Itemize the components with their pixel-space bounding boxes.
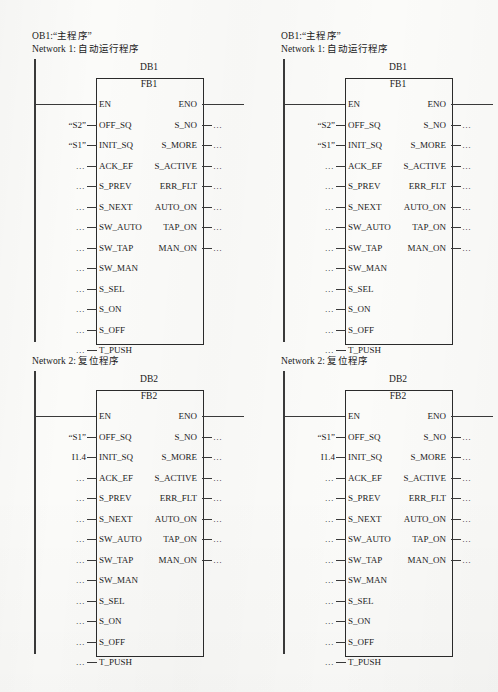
output-pin-s-no[interactable]: S_NO (101, 120, 197, 131)
output-pin-eno[interactable]: ENO (101, 99, 197, 110)
output-pin-s-more[interactable]: S_MORE (350, 140, 446, 151)
input-pin-sw-man[interactable]: SW_MAN (99, 263, 138, 274)
input-operand-placeholder[interactable]: … (76, 243, 86, 254)
input-pin-s-sel[interactable]: S_SEL (348, 596, 374, 607)
input-operand-placeholder[interactable]: … (76, 514, 86, 525)
input-operand-placeholder[interactable]: … (325, 534, 335, 545)
input-pin-s-off[interactable]: S_OFF (348, 325, 374, 336)
input-pin-s-sel[interactable]: S_SEL (348, 284, 374, 295)
output-operand-placeholder[interactable]: … (462, 514, 472, 525)
input-operand-off-sq[interactable]: “S2” (318, 120, 336, 131)
input-operand-placeholder[interactable]: … (325, 284, 335, 295)
output-operand-placeholder[interactable]: … (462, 222, 472, 233)
output-operand-placeholder[interactable]: … (462, 120, 472, 131)
input-operand-placeholder[interactable]: … (325, 637, 335, 648)
input-operand-placeholder[interactable]: … (76, 304, 86, 315)
output-operand-placeholder[interactable]: … (213, 243, 223, 254)
output-pin-tap-on[interactable]: TAP_ON (350, 534, 446, 545)
input-operand-init-sq[interactable]: I1.4 (72, 452, 86, 463)
input-operand-placeholder[interactable]: … (76, 222, 86, 233)
output-pin-auto-on[interactable]: AUTO_ON (101, 202, 197, 213)
input-operand-placeholder[interactable]: … (325, 493, 335, 504)
output-operand-placeholder[interactable]: … (213, 432, 223, 443)
input-operand-placeholder[interactable]: … (76, 161, 86, 172)
input-pin-s-sel[interactable]: S_SEL (99, 284, 125, 295)
input-operand-placeholder[interactable]: … (76, 181, 86, 192)
output-operand-placeholder[interactable]: … (213, 161, 223, 172)
output-pin-s-active[interactable]: S_ACTIVE (101, 161, 197, 172)
output-pin-err-flt[interactable]: ERR_FLT (101, 181, 197, 192)
output-pin-eno[interactable]: ENO (350, 99, 446, 110)
output-pin-man-on[interactable]: MAN_ON (101, 243, 197, 254)
input-operand-init-sq[interactable]: I1.4 (321, 452, 335, 463)
input-operand-off-sq[interactable]: “S2” (69, 120, 87, 131)
output-pin-auto-on[interactable]: AUTO_ON (101, 514, 197, 525)
input-operand-placeholder[interactable]: … (325, 555, 335, 566)
output-operand-placeholder[interactable]: … (462, 181, 472, 192)
output-operand-placeholder[interactable]: … (462, 452, 472, 463)
output-pin-err-flt[interactable]: ERR_FLT (350, 181, 446, 192)
input-operand-placeholder[interactable]: … (325, 325, 335, 336)
input-pin-sw-man[interactable]: SW_MAN (348, 263, 387, 274)
output-operand-placeholder[interactable]: … (213, 222, 223, 233)
input-operand-init-sq[interactable]: “S1” (69, 140, 87, 151)
input-operand-placeholder[interactable]: … (76, 616, 86, 627)
output-pin-s-no[interactable]: S_NO (350, 432, 446, 443)
output-operand-placeholder[interactable]: … (213, 473, 223, 484)
output-pin-man-on[interactable]: MAN_ON (350, 555, 446, 566)
output-pin-s-active[interactable]: S_ACTIVE (350, 473, 446, 484)
output-operand-placeholder[interactable]: … (462, 555, 472, 566)
input-operand-placeholder[interactable]: … (76, 637, 86, 648)
input-operand-off-sq[interactable]: “S1” (318, 432, 336, 443)
output-operand-placeholder[interactable]: … (213, 514, 223, 525)
output-pin-man-on[interactable]: MAN_ON (350, 243, 446, 254)
output-pin-eno[interactable]: ENO (350, 411, 446, 422)
output-operand-placeholder[interactable]: … (213, 555, 223, 566)
input-operand-placeholder[interactable]: … (325, 304, 335, 315)
output-operand-placeholder[interactable]: … (462, 534, 472, 545)
input-operand-placeholder[interactable]: … (76, 493, 86, 504)
output-pin-err-flt[interactable]: ERR_FLT (101, 493, 197, 504)
output-operand-placeholder[interactable]: … (462, 243, 472, 254)
output-pin-eno[interactable]: ENO (101, 411, 197, 422)
input-operand-placeholder[interactable]: … (325, 202, 335, 213)
output-pin-tap-on[interactable]: TAP_ON (101, 222, 197, 233)
input-pin-s-off[interactable]: S_OFF (99, 637, 125, 648)
input-operand-placeholder[interactable]: … (325, 161, 335, 172)
input-operand-placeholder[interactable]: … (76, 202, 86, 213)
input-operand-placeholder[interactable]: … (325, 596, 335, 607)
input-operand-placeholder[interactable]: … (76, 325, 86, 336)
input-pin-s-off[interactable]: S_OFF (348, 637, 374, 648)
output-operand-placeholder[interactable]: … (462, 432, 472, 443)
output-pin-s-no[interactable]: S_NO (101, 432, 197, 443)
output-operand-placeholder[interactable]: … (462, 161, 472, 172)
output-pin-s-more[interactable]: S_MORE (350, 452, 446, 463)
input-pin-s-sel[interactable]: S_SEL (99, 596, 125, 607)
output-pin-s-active[interactable]: S_ACTIVE (101, 473, 197, 484)
input-operand-placeholder[interactable]: … (325, 616, 335, 627)
input-operand-placeholder[interactable]: … (325, 575, 335, 586)
output-pin-s-more[interactable]: S_MORE (101, 452, 197, 463)
output-operand-placeholder[interactable]: … (213, 140, 223, 151)
input-pin-s-on[interactable]: S_ON (99, 616, 122, 627)
output-operand-placeholder[interactable]: … (462, 493, 472, 504)
input-operand-placeholder[interactable]: … (325, 263, 335, 274)
input-operand-placeholder[interactable]: … (76, 284, 86, 295)
output-pin-s-active[interactable]: S_ACTIVE (350, 161, 446, 172)
output-pin-man-on[interactable]: MAN_ON (101, 555, 197, 566)
input-operand-placeholder[interactable]: … (76, 473, 86, 484)
output-pin-auto-on[interactable]: AUTO_ON (350, 514, 446, 525)
input-pin-t-push[interactable]: T_PUSH (99, 657, 132, 668)
output-pin-err-flt[interactable]: ERR_FLT (350, 493, 446, 504)
input-operand-placeholder[interactable]: … (325, 243, 335, 254)
output-operand-placeholder[interactable]: … (213, 181, 223, 192)
input-operand-placeholder[interactable]: … (325, 657, 335, 668)
output-operand-placeholder[interactable]: … (462, 140, 472, 151)
output-operand-placeholder[interactable]: … (213, 493, 223, 504)
output-operand-placeholder[interactable]: … (213, 452, 223, 463)
input-operand-off-sq[interactable]: “S1” (69, 432, 87, 443)
input-operand-placeholder[interactable]: … (76, 657, 86, 668)
output-pin-s-no[interactable]: S_NO (350, 120, 446, 131)
input-operand-placeholder[interactable]: … (325, 181, 335, 192)
input-operand-placeholder[interactable]: … (76, 575, 86, 586)
